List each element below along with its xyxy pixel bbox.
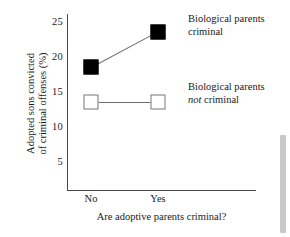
y-axis-title-line1: Adopted sons convicted	[25, 19, 37, 189]
chart-figure: 25 20 15 10 5 No Yes Are adoptive parent…	[0, 0, 290, 237]
x-tick-no: No	[85, 193, 98, 205]
y-axis-title: Adopted sons convicted of criminal offen…	[25, 19, 48, 189]
legend-biological-not-criminal: Biological parents not criminal	[188, 81, 265, 106]
legend-criminal-line1: Biological parents	[188, 13, 265, 26]
data-point-not-criminal-yes	[151, 95, 166, 110]
series-line-biological-not-criminal	[91, 102, 158, 103]
legend-not-criminal-line1: Biological parents	[188, 81, 265, 94]
legend-criminal-line2: criminal	[188, 26, 265, 39]
x-axis-tick-labels: No Yes	[67, 193, 256, 209]
series-line-biological-criminal	[91, 32, 157, 68]
data-point-criminal-yes	[151, 25, 166, 40]
scrollbar-thumb[interactable]	[280, 135, 286, 233]
x-axis-title: Are adoptive parents criminal?	[67, 211, 256, 223]
legend-not-criminal-rest: criminal	[201, 94, 239, 105]
legend-biological-criminal: Biological parents criminal	[188, 13, 265, 38]
legend-not-criminal-line2: not criminal	[188, 94, 265, 107]
legend-not-emphasis: not	[188, 94, 201, 105]
data-point-criminal-no	[84, 60, 99, 75]
data-point-not-criminal-no	[84, 95, 99, 110]
x-axis-line	[67, 190, 256, 191]
y-axis-title-line2: of criminal offenses (%)	[36, 19, 48, 189]
x-tick-yes: Yes	[150, 193, 165, 205]
